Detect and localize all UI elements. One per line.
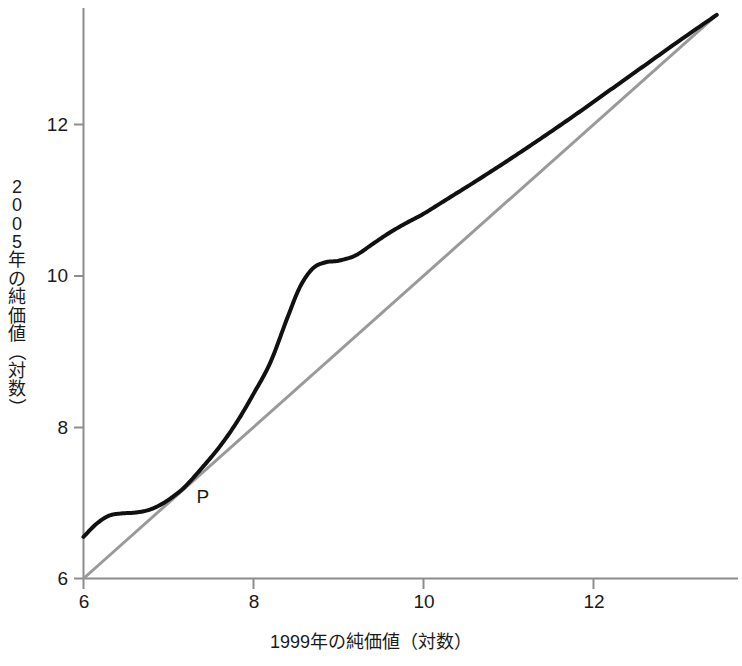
x-tick-marks [84,578,594,589]
y-axis-title-char-9: （ [8,339,26,365]
y-tick-label-10: 10 [28,265,68,287]
chart-figure: 6 8 10 12 6 8 10 12 P 1999年の純価値（対数） 2005… [0,0,742,666]
y-axis-title-char-12: ） [8,394,26,420]
y-tick-label-12: 12 [28,114,68,136]
y-axis-title-char-0: 2 [4,178,30,196]
y-tick-marks [74,125,83,579]
curve-label-p: P [197,486,210,508]
y-tick-label-6: 6 [28,568,68,590]
y-axis-title-char-6: 純 [4,288,30,306]
y-tick-label-8: 8 [28,417,68,439]
x-tick-label-12: 12 [574,591,614,613]
x-tick-label-8: 8 [234,591,274,613]
y-axis-title-char-5: の [4,270,30,288]
regression-curve [84,15,717,537]
y-axis-title-char-4: 年 [4,251,30,269]
y-axis-title-char-3: 5 [4,233,30,251]
y-axis-title-char-7: 価 [4,307,30,325]
y-axis-title-char-2: 0 [4,215,30,233]
plot-area [0,0,742,666]
y-axis-title: 2005年の純価値（対数） [4,178,30,417]
y-axis-title-char-1: 0 [4,196,30,214]
x-axis-title: 1999年の純価値（対数） [0,627,742,653]
x-tick-label-10: 10 [404,591,444,613]
x-tick-label-6: 6 [64,591,104,613]
